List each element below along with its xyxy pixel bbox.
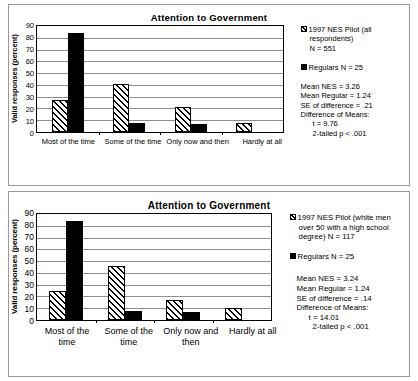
bar-nes [113,84,129,132]
bar-nes [108,266,125,320]
bar-group [37,214,96,320]
stat-difference-header: Difference of Means: [301,110,409,119]
x-axis-labels-bottom: Most of the time Some of the time Only n… [36,321,284,348]
stat-se-difference: SE of difference = .14 [297,294,409,304]
bar-group [154,214,213,320]
legend-swatch-solid-icon [301,64,307,70]
bar-group [213,214,272,320]
x-label: Some of the time [98,321,160,348]
legend-swatch-solid-icon [290,253,296,259]
stat-mean-regular: Mean Regular = 1.24 [301,91,409,100]
stat-t-value: t = 9.76 [301,119,409,128]
x-tick [222,132,223,135]
bar-group [222,26,284,132]
bar-nes [225,308,242,320]
legend-label-regulars: Regulars N = 25 [309,63,409,72]
x-axis-labels-top: Most of the time Some of the time Only n… [36,133,295,146]
x-label: Some of the time [101,133,166,146]
chart-body-bottom: Valid responses (percent) 90 80 70 60 50… [9,213,409,348]
bar-regulars [129,123,145,132]
chart-title-top: Attention to Government [9,12,409,23]
legend-spacer [290,243,409,252]
plot-area-top: Valid responses (percent) 90 80 70 60 50… [9,25,295,146]
legend-spacer [301,54,409,63]
x-label: Hardly at all [230,133,295,146]
y-tick: 20 [25,292,34,302]
figure-root: Attention to Government Valid responses … [0,0,418,381]
legend-swatch-hatched-icon [301,26,307,32]
stat-mean-nes: Mean NES = 3.24 [297,274,409,284]
chart-title-bottom: Attention to Government [9,200,409,211]
legend-item-nes: 1997 NES Pilot (white men over 50 with a… [290,213,409,242]
legend-line-3: N = 551 [309,44,409,53]
bar-regulars [183,312,200,320]
legend-item-regulars: Regulars N = 25 [301,63,409,72]
legend-line-2: respondents) [309,34,409,43]
y-axis-ticks-bottom: 90 80 70 60 50 40 30 20 10 0 [20,213,36,321]
plot-area-bottom: Valid responses (percent) 90 80 70 60 50… [9,213,284,348]
y-tick: 20 [26,104,34,113]
bar-regulars [66,221,83,320]
legend-line-2: over 50 with a high school [298,223,409,233]
chart-panel-top: Attention to Government Valid responses … [8,4,410,186]
y-tick: 80 [26,32,34,41]
stat-t-value: t = 14.01 [297,313,409,323]
bar-nes [49,291,66,320]
legend-item-regulars: Regulars N = 25 [290,252,409,262]
x-tick [213,320,214,323]
y-tick: 90 [25,208,34,218]
bar-regulars [68,33,84,132]
y-tick: 30 [26,92,34,101]
stat-mean-regular: Mean Regular = 1.24 [297,284,409,294]
legend-line-1: 1997 NES Pilot (all [309,25,372,34]
x-tick [99,132,100,135]
y-tick: 60 [26,56,34,65]
y-axis-label-top: Valid responses (percent) [9,25,20,133]
stats-block-bottom: Mean NES = 3.24 Mean Regular = 1.24 SE o… [290,274,409,332]
y-tick: 70 [26,44,34,53]
y-tick: 90 [26,21,34,30]
x-label: Only now and then [160,321,222,348]
x-label: Most of the time [36,321,98,348]
chart-panel-bottom: Attention to Government Valid responses … [8,191,410,377]
bar-group [96,214,155,320]
y-tick: 70 [25,232,34,242]
stat-se-difference: SE of difference = .21 [301,101,409,110]
y-tick: 0 [30,129,34,138]
y-tick: 50 [25,256,34,266]
y-tick: 40 [26,80,34,89]
bar-nes [52,100,68,132]
y-tick: 50 [26,68,34,77]
bar-group [37,26,99,132]
y-tick: 40 [25,268,34,278]
stat-p-value: 2-tailed p < .001 [301,129,409,138]
bar-series-top [37,26,283,132]
y-tick: 0 [29,316,34,326]
y-tick: 10 [26,116,34,125]
legend-and-stats-top: 1997 NES Pilot (all respondents) N = 551… [295,25,409,146]
y-tick: 60 [25,244,34,254]
legend-swatch-hatched-icon [290,214,296,220]
x-tick [160,132,161,135]
y-axis-label-bottom: Valid responses (percent) [9,213,20,321]
stat-difference-header: Difference of Means: [297,303,409,313]
legend-item-nes: 1997 NES Pilot (all respondents) N = 551 [301,25,409,53]
stat-mean-nes: Mean NES = 3.26 [301,82,409,91]
legend-line-1: 1997 NES Pilot (white men [298,213,391,222]
y-axis-ticks-top: 90 80 70 60 50 40 30 20 10 0 [20,25,36,133]
y-tick: 80 [25,220,34,230]
x-tick [96,320,97,323]
legend-line-3: degree) N = 117 [298,232,409,242]
plot-canvas-top [36,25,284,133]
bar-series-bottom [37,214,271,320]
bar-nes [166,300,183,320]
x-label: Most of the time [36,133,101,146]
stats-block-top: Mean NES = 3.26 Mean Regular = 1.24 SE o… [301,82,409,138]
chart-body-top: Valid responses (percent) 90 80 70 60 50… [9,25,409,146]
legend-label-nes: 1997 NES Pilot (all respondents) N = 551 [309,25,409,53]
bar-nes [236,123,252,132]
bar-regulars [125,311,142,320]
bar-nes [175,107,191,132]
bar-group [99,26,161,132]
plot-canvas-bottom [36,213,272,321]
